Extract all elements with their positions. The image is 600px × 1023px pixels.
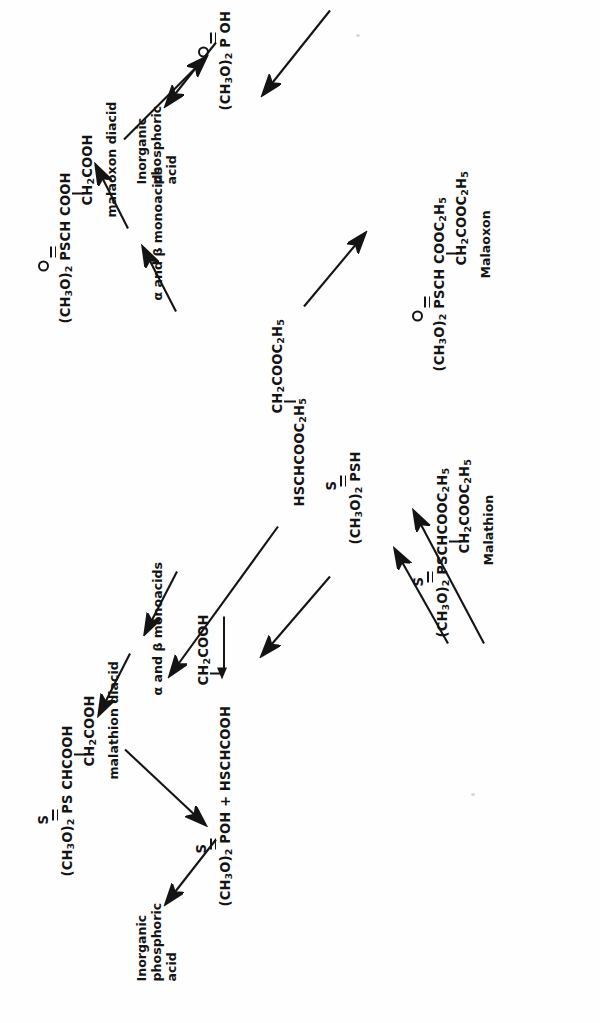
- inorganic-bottom-line3: acid: [164, 105, 179, 184]
- phosphorothioic-formula-line-1: (CH3O)2 POH + HSCHCOOH: [218, 705, 234, 906]
- phosphoric-formula-line-1: (CH3O)2 P OH: [218, 10, 234, 110]
- malathion-diacid-double-bond-icon: [52, 809, 58, 820]
- phosphoric-double-bond-icon: [210, 32, 216, 43]
- malathion-double-bond-icon: [427, 571, 433, 582]
- arrow-thioate-sh-to-phosphoric: [263, 10, 330, 94]
- spine-arrow-shaft: [223, 616, 225, 668]
- malathion-diacid-name: malathion diacid: [106, 661, 121, 779]
- inorganic-bottom-line1: Inorganic: [134, 105, 149, 184]
- mercapto-diester-line-1: HSCHCOOC2H5: [292, 398, 308, 506]
- diagram-canvas: (CH3O)2 PS CHCOOH CH2COOH S malathion di…: [0, 0, 600, 1023]
- malaoxon-diacid-oxygen-atom-icon: [38, 260, 49, 271]
- inorganic-top-line1: Inorganic: [134, 902, 149, 981]
- malaoxon-formula-line-2: CH2COOC2H5: [454, 171, 470, 265]
- phosphorothioic-sulfur-atom: S: [194, 844, 209, 854]
- malathion-diacid-formula-line-1: (CH3O)2 PS CHCOOH: [60, 725, 76, 876]
- inorganic-top-line3: acid: [164, 902, 179, 981]
- malathion-sulfur-atom: S: [411, 577, 426, 587]
- malaoxon-double-bond-icon: [424, 296, 430, 307]
- dithioic-double-bond-icon: [340, 475, 346, 486]
- scan-speck: [356, 34, 360, 37]
- malaoxon-oxygen-atom-icon: [412, 310, 423, 321]
- inorganic-bottom-line2: phosphoric: [149, 105, 164, 184]
- malaoxon-chain-link: [446, 252, 458, 254]
- label-monoacids-top: α and β monoacids: [150, 562, 165, 695]
- malathion-diacid-sulfur-atom: S: [36, 815, 51, 825]
- malathion-diacid-chain-link: [74, 753, 86, 755]
- label-inorganic-phosphoric-acid-top: Inorganic phosphoric acid: [134, 902, 179, 981]
- malaoxon-name: Malaoxon: [478, 210, 493, 278]
- inorganic-top-line2: phosphoric: [149, 902, 164, 981]
- malathion-chain-link: [449, 540, 461, 542]
- arrow-dithioic-to-phosphorothioic: [262, 576, 330, 655]
- malaoxon-diacid-chain-link: [72, 192, 84, 194]
- label-inorganic-phosphoric-acid-bottom: Inorganic phosphoric acid: [134, 105, 179, 184]
- scan-speck: [471, 793, 475, 796]
- arrow-malaoxon-to-thioate-sh: [304, 233, 365, 306]
- malaoxon-formula-line-1: (CH3O)2 PSCH COOC2H5: [432, 197, 448, 371]
- arrow-malathion-diacid-to-phosphorothioic: [125, 749, 205, 824]
- malathion-formula-line-2: CH2COOC2H5: [457, 459, 473, 553]
- mercapto-diester-line-2: CH2COOC2H5: [270, 319, 286, 413]
- malaoxon-diacid-line-1: (CH3O)2 PSCH COOH: [58, 172, 74, 323]
- malaoxon-diacid-name: malaoxon diacid: [104, 101, 119, 217]
- phosphorothioic-double-bond-icon: [210, 838, 216, 849]
- malathion-name: Malathion: [481, 494, 496, 565]
- phosphoric-oxygen-atom-icon: [198, 46, 209, 57]
- mercapto-diester-chain-link: [284, 400, 296, 402]
- malathion-formula-line-1: (CH3O)2 PSCHCOOC2H5: [435, 467, 451, 637]
- label-monoacids-bottom: α and β monoacids: [150, 167, 165, 300]
- malaoxon-diacid-double-bond-icon: [50, 246, 56, 257]
- dithioic-sulfur-atom: S: [324, 481, 339, 491]
- dithioic-formula-line-1: (CH3O)2 PSH: [348, 451, 364, 544]
- spine-arrow-head-icon: [217, 667, 227, 679]
